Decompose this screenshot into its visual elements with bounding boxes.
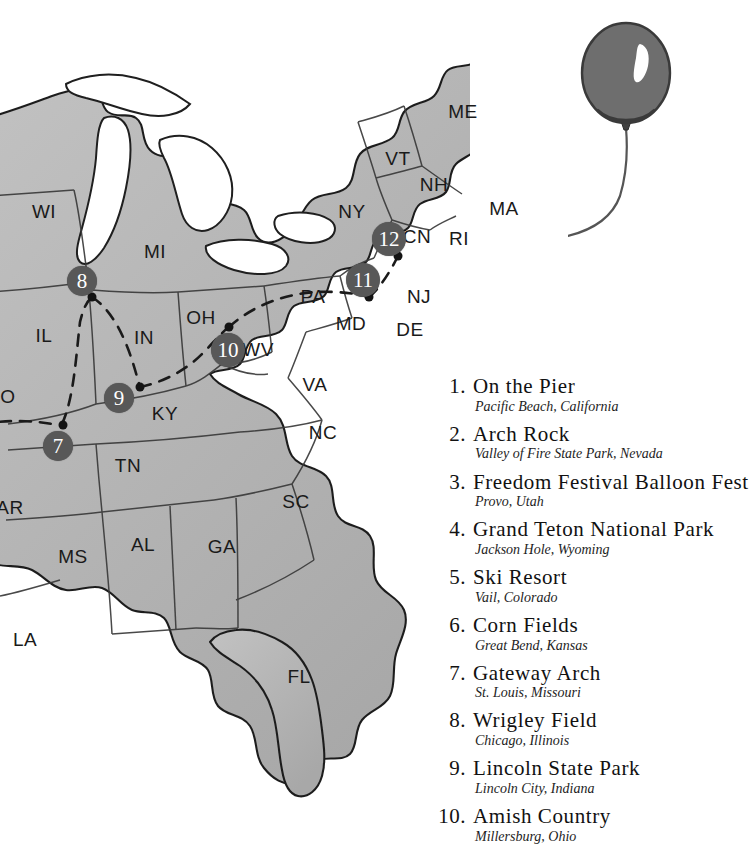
legend-item[interactable]: 5.Ski ResortVail, Colorado — [432, 565, 711, 612]
legend-item-location: Millersburg, Ohio — [473, 829, 711, 845]
legend-item-number: 6. — [432, 613, 473, 638]
landmass-main — [0, 62, 470, 783]
map-marker-12[interactable]: 12 — [372, 222, 406, 256]
legend-item-title: Gateway Arch — [473, 662, 711, 685]
legend-item-location: Pacific Beach, California — [473, 399, 711, 415]
map-marker-11[interactable]: 11 — [346, 263, 380, 297]
legend-item-location: St. Louis, Missouri — [473, 685, 711, 701]
legend-item-location: Chicago, Illinois — [473, 733, 711, 749]
legend-item[interactable]: 2.Arch RockValley of Fire State Park, Ne… — [432, 422, 711, 469]
legend-item-location: Lincoln City, Indiana — [473, 781, 711, 797]
legend-item-body: Lincoln State ParkLincoln City, Indiana — [473, 757, 711, 803]
legend-item-title: Arch Rock — [473, 423, 711, 446]
legend-item-location: Jackson Hole, Wyoming — [473, 542, 714, 558]
legend-item-number: 3. — [432, 470, 473, 495]
legend-item[interactable]: 3.Freedom Festival Balloon FestProvo, Ut… — [432, 470, 711, 517]
legend-item-title: Freedom Festival Balloon Fest — [473, 471, 749, 494]
legend-item-location: Great Bend, Kansas — [473, 638, 711, 654]
legend-item-body: Gateway ArchSt. Louis, Missouri — [473, 662, 711, 708]
marker-point-10 — [225, 323, 234, 332]
balloon-illustration — [568, 18, 713, 248]
legend-item-title: Ski Resort — [473, 566, 711, 589]
legend-item-body: Corn FieldsGreat Bend, Kansas — [473, 614, 711, 660]
legend-item-body: Ski ResortVail, Colorado — [473, 566, 711, 612]
legend-item-number: 5. — [432, 565, 473, 590]
state-label-ma: MA — [489, 198, 519, 220]
map-marker-9[interactable]: 9 — [104, 383, 134, 413]
legend-item-body: Grand Teton National ParkJackson Hole, W… — [473, 518, 714, 564]
legend-item-body: Amish CountryMillersburg, Ohio — [473, 805, 711, 848]
legend-item-title: Corn Fields — [473, 614, 711, 637]
legend-item-number: 9. — [432, 756, 473, 781]
map-marker-10[interactable]: 10 — [211, 333, 245, 367]
legend-item-number: 7. — [432, 661, 473, 686]
marker-point-7 — [59, 421, 68, 430]
legend-item[interactable]: 1.On the PierPacific Beach, California — [432, 374, 711, 421]
legend-item-body: Freedom Festival Balloon FestProvo, Utah — [473, 471, 749, 517]
legend-item-title: Grand Teton National Park — [473, 518, 714, 541]
marker-point-9 — [136, 383, 145, 392]
location-legend: 1.On the PierPacific Beach, California2.… — [432, 374, 711, 848]
us-map: WIMIMEVTNHMANYCNRIILINOHPANJMDDEWVVAOKYN… — [0, 0, 470, 799]
legend-item-location: Valley of Fire State Park, Nevada — [473, 446, 711, 462]
legend-item[interactable]: 7.Gateway ArchSt. Louis, Missouri — [432, 661, 711, 708]
map-marker-7[interactable]: 7 — [43, 431, 73, 461]
legend-item-number: 8. — [432, 708, 473, 733]
legend-item-number: 4. — [432, 517, 473, 542]
legend-item-number: 1. — [432, 374, 473, 399]
legend-item-location: Provo, Utah — [473, 494, 749, 510]
legend-item[interactable]: 4.Grand Teton National ParkJackson Hole,… — [432, 517, 711, 564]
legend-item-number: 2. — [432, 422, 473, 447]
legend-item-location: Vail, Colorado — [473, 590, 711, 606]
legend-item-number: 10. — [432, 804, 473, 829]
map-marker-8[interactable]: 8 — [67, 266, 97, 296]
map-illustration — [0, 0, 470, 799]
legend-item-title: Amish Country — [473, 805, 711, 828]
balloon-body — [582, 23, 670, 123]
legend-item[interactable]: 6.Corn FieldsGreat Bend, Kansas — [432, 613, 711, 660]
legend-item-body: Wrigley FieldChicago, Illinois — [473, 709, 711, 755]
balloon-string — [568, 128, 627, 236]
legend-item[interactable]: 9.Lincoln State ParkLincoln City, Indian… — [432, 756, 711, 803]
legend-item-body: On the PierPacific Beach, California — [473, 375, 711, 421]
legend-item-title: Lincoln State Park — [473, 757, 711, 780]
legend-item-title: Wrigley Field — [473, 709, 711, 732]
legend-item-title: On the Pier — [473, 375, 711, 398]
legend-item-body: Arch RockValley of Fire State Park, Neva… — [473, 423, 711, 469]
legend-item[interactable]: 10.Amish CountryMillersburg, Ohio — [432, 804, 711, 848]
legend-item[interactable]: 8.Wrigley FieldChicago, Illinois — [432, 708, 711, 755]
